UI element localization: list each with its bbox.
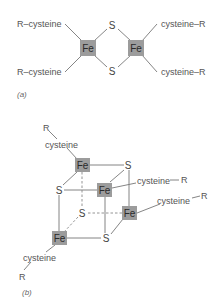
bond (192, 196, 200, 198)
bond (94, 29, 107, 41)
r-group-label: R (181, 175, 188, 185)
panel-a-2fe2s: Fe Fe S S R–cysteine R–cysteine cysteine… (17, 19, 206, 99)
bond (112, 183, 136, 188)
iron-atom: Fe (130, 43, 142, 54)
r-group-label: R (43, 123, 50, 133)
cysteine-label: cysteine (137, 176, 170, 186)
ligand-label: cysteine–R (161, 67, 206, 77)
iron-atom: Fe (124, 208, 136, 219)
bond (24, 262, 31, 270)
iron-atom: Fe (77, 160, 89, 171)
sulfur-atom: S (103, 233, 110, 244)
cysteine-label: cysteine (157, 196, 190, 206)
bond (110, 170, 124, 182)
iron-sulfur-cluster-diagram: Fe Fe S S R–cysteine R–cysteine cysteine… (0, 0, 220, 308)
sulfur-atom: S (56, 185, 63, 196)
r-group-label: R (201, 191, 208, 201)
sulfur-atom: S (109, 66, 116, 77)
bond (142, 24, 157, 41)
bond (118, 55, 131, 67)
ligand-label: R–cysteine (17, 67, 62, 77)
ligand-label: cysteine–R (161, 19, 206, 29)
cysteine-label: cysteine (23, 253, 56, 263)
bond (94, 55, 107, 67)
bond (142, 55, 157, 72)
hidden-bond (64, 217, 78, 232)
iron-atom: Fe (82, 43, 94, 54)
bond (118, 29, 131, 41)
bond (63, 172, 77, 185)
sulfur-atom: S (79, 208, 86, 219)
bond (49, 131, 57, 139)
bond (111, 219, 123, 234)
panel-b-4fe4s: Fe Fe Fe Fe S S S S R cysteine cysteine … (19, 123, 208, 297)
bond (65, 24, 82, 41)
ligand-label: R–cysteine (17, 19, 62, 29)
iron-atom: Fe (54, 233, 66, 244)
iron-atom: Fe (99, 185, 111, 196)
cysteine-label: cysteine (45, 140, 78, 150)
r-group-label: R (19, 272, 26, 282)
bond (46, 245, 55, 252)
panel-caption: (b) (22, 288, 32, 297)
sulfur-atom: S (125, 160, 132, 171)
sulfur-atom: S (109, 20, 116, 31)
panel-caption: (a) (17, 90, 27, 99)
bond (65, 55, 82, 72)
